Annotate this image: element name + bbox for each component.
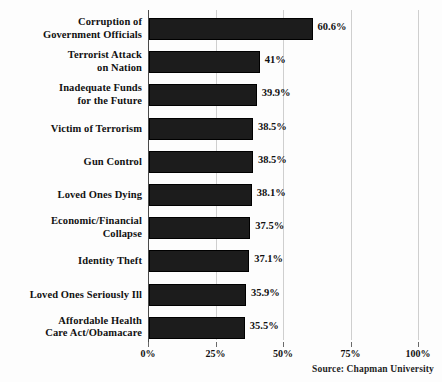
bar <box>149 84 257 106</box>
category-label: Loved Ones Seriously Ill <box>0 289 142 302</box>
bar-row: Corruption ofGovernment Officials60.6% <box>0 14 442 44</box>
bar-row: Affordable HealthCare Act/Obamacare35.5% <box>0 313 442 343</box>
category-label: Terrorist Attackon Nation <box>0 49 142 74</box>
category-label: Inadequate Fundsfor the Future <box>0 82 142 107</box>
bar-row: Victim of Terrorism38.5% <box>0 114 442 144</box>
x-tick-mark <box>418 342 419 347</box>
bar-value-label: 37.5% <box>255 220 284 232</box>
bar-row: Economic/FinancialCollapse37.5% <box>0 213 442 243</box>
bar-chart: Corruption ofGovernment Officials60.6%Te… <box>0 0 442 382</box>
bar-row: Loved Ones Dying38.1% <box>0 180 442 210</box>
bar-value-label: 60.6% <box>318 21 347 33</box>
bar-value-label: 38.5% <box>258 154 287 166</box>
bar-value-label: 38.5% <box>258 121 287 133</box>
x-tick-label: 0% <box>128 348 168 359</box>
bar <box>149 151 253 173</box>
bar <box>149 118 253 140</box>
bar-value-label: 39.9% <box>262 87 291 99</box>
bar-row: Gun Control38.5% <box>0 147 442 177</box>
source-note: Source: Chapman University <box>312 364 434 374</box>
x-tick-label: 25% <box>196 348 236 359</box>
category-label: Affordable HealthCare Act/Obamacare <box>0 315 142 340</box>
bar-value-label: 35.9% <box>251 287 280 299</box>
x-tick-mark <box>148 342 149 347</box>
x-tick-label: 100% <box>398 348 438 359</box>
bar <box>149 250 249 272</box>
bar <box>149 51 260 73</box>
bar-row: Identity Theft37.1% <box>0 246 442 276</box>
bar <box>149 184 252 206</box>
x-tick-mark <box>351 342 352 347</box>
bar-value-label: 37.1% <box>254 253 283 265</box>
bar <box>149 217 250 239</box>
bar-row: Inadequate Fundsfor the Future39.9% <box>0 80 442 110</box>
bar-value-label: 38.1% <box>257 187 286 199</box>
x-tick-mark <box>216 342 217 347</box>
category-label: Identity Theft <box>0 255 142 268</box>
category-label: Gun Control <box>0 156 142 169</box>
bar <box>149 18 313 40</box>
x-tick-label: 50% <box>263 348 303 359</box>
bar-row: Terrorist Attackon Nation41% <box>0 47 442 77</box>
x-tick-label: 75% <box>331 348 371 359</box>
category-label: Economic/FinancialCollapse <box>0 215 142 240</box>
bar <box>149 284 246 306</box>
bar-value-label: 35.5% <box>250 320 279 332</box>
bar-value-label: 41% <box>265 54 286 66</box>
bar <box>149 317 245 339</box>
category-label: Victim of Terrorism <box>0 123 142 136</box>
category-label: Corruption ofGovernment Officials <box>0 16 142 41</box>
category-label: Loved Ones Dying <box>0 189 142 202</box>
x-tick-mark <box>283 342 284 347</box>
bar-row: Loved Ones Seriously Ill35.9% <box>0 280 442 310</box>
